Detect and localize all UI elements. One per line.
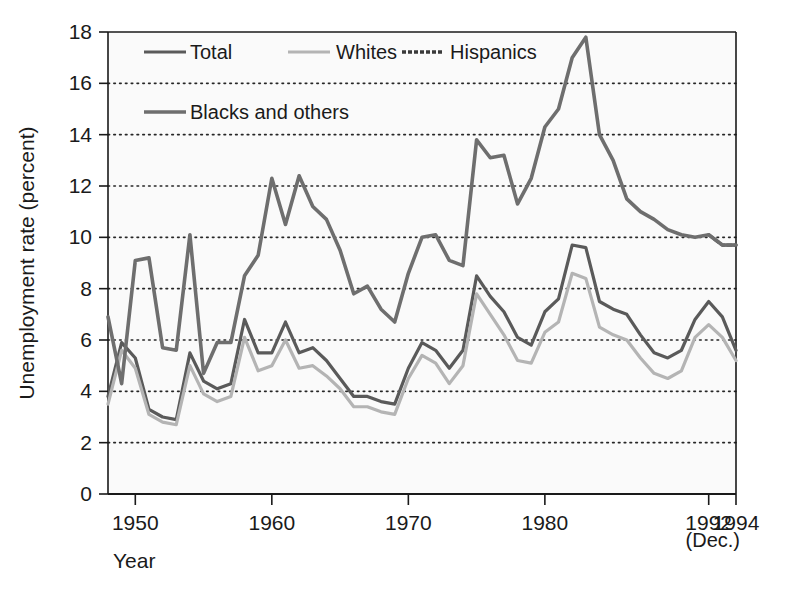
y-tick-label-8: 8: [80, 277, 92, 300]
y-tick-label-12: 12: [69, 174, 92, 197]
x-axis-note-dec: (Dec.): [686, 529, 740, 551]
y-tick-label-10: 10: [69, 225, 92, 248]
legend-label-total: Total: [190, 41, 232, 63]
chart-figure: 024681012141618 195019601970198019921994…: [0, 0, 792, 597]
y-tick-label-2: 2: [80, 431, 92, 454]
legend-label-blacks-and-others: Blacks and others: [190, 101, 349, 123]
legend-label-hispanics: Hispanics: [450, 41, 537, 63]
y-tick-label-4: 4: [80, 379, 92, 402]
legend-label-whites: Whites: [336, 41, 397, 63]
y-axis-title: Unemployment rate (percent): [15, 126, 38, 399]
y-tick-label-0: 0: [80, 482, 92, 505]
unemployment-rate-line-chart: 024681012141618 195019601970198019921994…: [0, 0, 792, 597]
y-tick-label-6: 6: [80, 328, 92, 351]
y-tick-label-18: 18: [69, 20, 92, 43]
x-tick-label-1970: 1970: [385, 511, 432, 534]
x-axis-title: Year: [113, 549, 155, 572]
y-tick-label-14: 14: [69, 123, 93, 146]
y-tick-label-16: 16: [69, 71, 92, 94]
x-tick-label-1950: 1950: [112, 511, 159, 534]
x-tick-label-1960: 1960: [248, 511, 295, 534]
x-tick-label-1980: 1980: [522, 511, 569, 534]
